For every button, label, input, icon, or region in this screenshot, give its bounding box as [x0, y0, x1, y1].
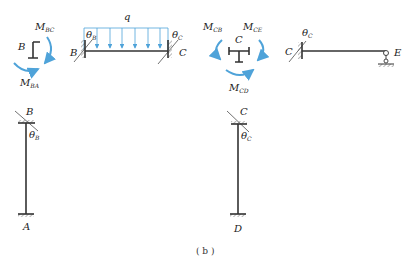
beam-bc-left-label: B	[69, 47, 77, 58]
moment-mbc-label: MBC	[34, 21, 55, 33]
moment-mba-label: MBA	[19, 77, 40, 89]
moment-mce-label: MCE	[242, 21, 263, 33]
figure-caption: ( b )	[196, 246, 215, 256]
joint-c-label: C	[235, 34, 243, 45]
theta-b-col-label: θB	[29, 129, 40, 141]
beam-bc: q B C θB θC	[69, 11, 187, 64]
joint-c-glyph	[229, 47, 249, 62]
column-dc-bottom-label: D	[233, 223, 242, 234]
column-dc: C θC D	[227, 106, 252, 234]
moment-mbc-arrow-icon	[45, 37, 51, 63]
moment-mcd-arrow-icon	[226, 70, 253, 75]
fixed-support-d-icon	[230, 214, 246, 217]
moment-mba-arrow-icon	[14, 63, 38, 71]
column-ab: B θB A	[15, 106, 40, 232]
moment-mce-arrow-icon	[258, 40, 263, 60]
beam-ce-left-label: C	[285, 46, 293, 57]
joint-b-glyph	[28, 42, 40, 58]
load-q-label: q	[124, 11, 130, 22]
moment-mcd-label: MCD	[228, 82, 249, 94]
diagram-canvas: MBC B MBA q B	[0, 0, 410, 262]
theta-c-col-label: θC	[241, 130, 252, 142]
roller-support-e-icon	[378, 51, 394, 68]
column-dc-top-label: C	[240, 106, 248, 117]
joint-c-fbd: MCB MCE C MCD	[202, 21, 263, 94]
fixed-support-a-icon	[18, 214, 34, 217]
beam-ce-right-label: E	[393, 47, 402, 58]
moment-mcb-arrow-icon	[216, 40, 222, 59]
column-ab-bottom-label: A	[22, 221, 30, 232]
joint-b-label: B	[17, 41, 25, 52]
beam-ce: C θC E	[285, 27, 402, 67]
beam-bc-right-label: C	[179, 47, 187, 58]
theta-b-label: θB	[86, 29, 97, 41]
joint-b-fbd: MBC B MBA	[14, 21, 55, 89]
moment-mcb-label: MCB	[202, 21, 223, 33]
theta-c-beam-ce-label: θC	[302, 27, 313, 39]
distributed-load-arrows	[84, 28, 168, 50]
theta-c-label: θC	[172, 29, 183, 41]
column-ab-top-label: B	[25, 106, 33, 117]
